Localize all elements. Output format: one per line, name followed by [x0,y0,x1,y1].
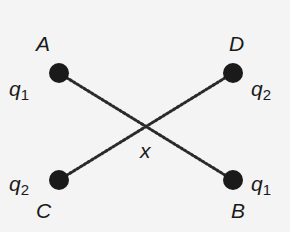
charge-symbol: q [9,172,21,195]
charge-subscript: 2 [21,181,29,198]
charge-label-c: q2 [9,173,29,197]
charge-label-d: q2 [251,78,271,102]
charge-symbol: q [9,77,21,100]
point-label-b: B [231,200,245,221]
charge-dot-b [223,170,243,190]
charge-dot-a [49,63,69,83]
charge-symbol: q [251,77,263,100]
charge-label-a: q1 [9,78,29,102]
center-label-x: x [140,140,151,161]
charge-label-b: q1 [251,173,271,197]
charge-dot-d [223,63,243,83]
charge-subscript: 1 [21,86,29,103]
charge-subscript: 2 [263,86,271,103]
point-label-c: C [36,200,51,221]
point-label-a: A [36,33,50,54]
point-label-d: D [229,33,244,54]
charge-subscript: 1 [263,181,271,198]
charge-dot-c [49,170,69,190]
charge-symbol: q [251,172,263,195]
